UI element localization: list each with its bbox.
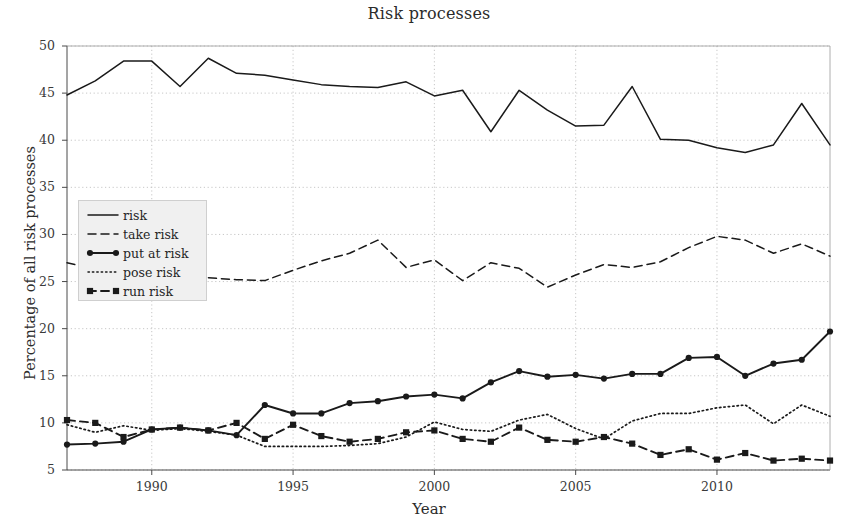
y-tick-label: 20 xyxy=(25,321,55,336)
x-tick-label: 2010 xyxy=(687,479,747,494)
x-tick-label: 1995 xyxy=(263,479,323,494)
legend-label: put at risk xyxy=(123,246,188,261)
legend-swatch-dashed xyxy=(83,281,123,301)
y-tick-label: 40 xyxy=(25,132,55,147)
y-axis-label: Percentage of all risk processes xyxy=(22,53,38,473)
y-tick-label: 50 xyxy=(25,38,55,53)
legend-label: run risk xyxy=(123,284,173,299)
y-tick-label: 25 xyxy=(25,274,55,289)
legend-label: pose risk xyxy=(123,265,180,280)
y-tick-label: 45 xyxy=(25,85,55,100)
y-tick-label: 35 xyxy=(25,179,55,194)
legend-item-risk[interactable]: risk xyxy=(79,205,208,225)
series-run-risk xyxy=(64,417,833,464)
chart-legend: risktake riskput at riskpose riskrun ris… xyxy=(78,200,207,301)
x-axis-label: Year xyxy=(0,500,858,518)
legend-swatch-dashed xyxy=(83,224,123,244)
legend-label: take risk xyxy=(123,227,178,242)
legend-label: risk xyxy=(123,208,147,223)
legend-item-put-at-risk[interactable]: put at risk xyxy=(79,243,208,263)
x-tick-label: 1990 xyxy=(122,479,182,494)
legend-item-run-risk[interactable]: run risk xyxy=(79,281,208,301)
legend-swatch-solid xyxy=(83,205,123,225)
y-tick-label: 15 xyxy=(25,368,55,383)
legend-item-pose-risk[interactable]: pose risk xyxy=(79,262,208,282)
y-tick-label: 30 xyxy=(25,226,55,241)
y-tick-label: 10 xyxy=(25,415,55,430)
chart-figure: Risk processes Percentage of all risk pr… xyxy=(0,0,858,529)
series-risk xyxy=(67,58,830,152)
x-tick-label: 2005 xyxy=(546,479,606,494)
legend-item-take-risk[interactable]: take risk xyxy=(79,224,208,244)
x-tick-label: 2000 xyxy=(404,479,464,494)
legend-swatch-solid xyxy=(83,243,123,263)
legend-swatch-dotted xyxy=(83,262,123,282)
y-tick-label: 5 xyxy=(25,462,55,477)
